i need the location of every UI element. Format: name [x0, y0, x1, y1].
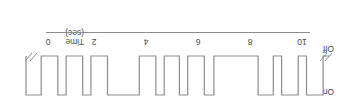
axis-break-mark-left — [320, 53, 332, 61]
axis-break-mark-right — [25, 53, 37, 61]
timing-diagram-figure: Time (sec) Off On 10 8 6 4 2 0 — [0, 0, 356, 109]
waveform-svg — [0, 0, 356, 109]
square-wave-trace — [26, 56, 330, 95]
